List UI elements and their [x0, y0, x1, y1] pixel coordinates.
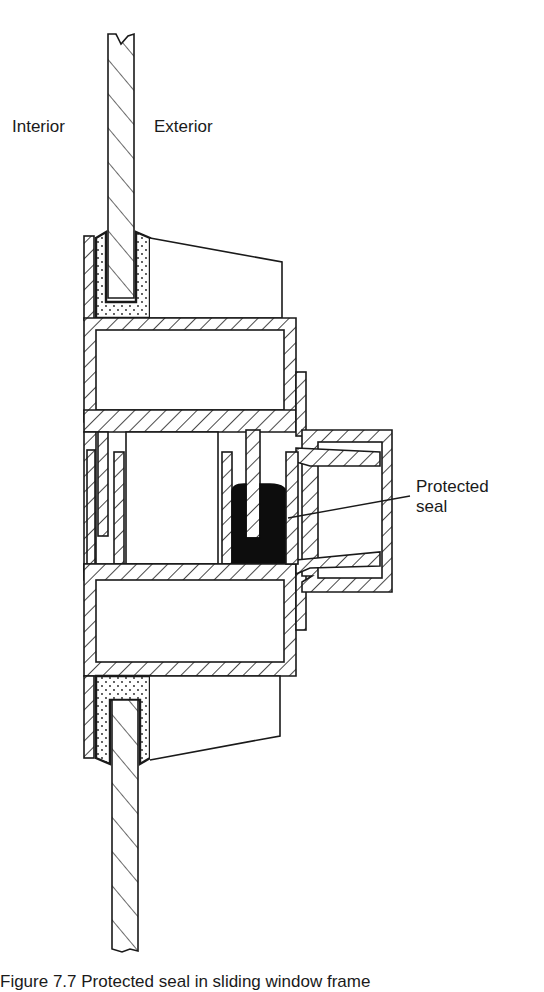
- interior-label: Interior: [12, 117, 65, 137]
- frame-box-upper: [84, 318, 296, 422]
- frame-upstand-upper: [84, 236, 94, 320]
- figure-caption: Figure 7.7 Protected seal in sliding win…: [0, 972, 544, 992]
- frame-edge-upper: [296, 372, 306, 436]
- protected-seal-label-line2: seal: [416, 497, 489, 517]
- exterior-weather-box: [286, 430, 392, 592]
- frame-downstand-lower: [84, 676, 94, 758]
- protected-seal-label: Protected seal: [416, 477, 489, 516]
- frame-box-lower: [84, 564, 296, 676]
- protected-seal-label-line1: Protected: [416, 477, 489, 497]
- exterior-label: Exterior: [154, 117, 213, 137]
- glazing-bead-lower: [150, 676, 280, 760]
- glass-pane-lower: [112, 700, 138, 952]
- glass-pane-upper: [108, 34, 134, 298]
- protected-seal: [232, 484, 288, 564]
- glazing-bead-upper: [150, 238, 282, 318]
